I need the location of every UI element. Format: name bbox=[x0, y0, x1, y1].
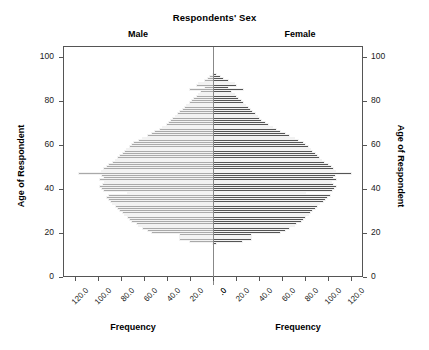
y-tick-mark-left-60 bbox=[59, 145, 63, 146]
y-tick-mark-left-0 bbox=[59, 277, 63, 278]
y-tick-mark-left-100 bbox=[59, 57, 63, 58]
y-tick-label-left-40: 40 bbox=[28, 183, 54, 193]
y-tick-label-left-80: 80 bbox=[28, 95, 54, 105]
x-tick-mark-right-.0 bbox=[213, 277, 214, 281]
y-tick-label-right-100: 100 bbox=[371, 51, 397, 61]
y-tick-mark-right-0 bbox=[363, 277, 367, 278]
x-axis-title-left: Frequency bbox=[73, 322, 193, 332]
y-tick-label-right-60: 60 bbox=[371, 139, 397, 149]
x-tick-label-right-20.0: 20.0 bbox=[224, 286, 252, 314]
x-tick-label-right-100.0: 100.0 bbox=[316, 286, 344, 314]
x-tick-label-left-120.0: 120.0 bbox=[62, 286, 90, 314]
y-tick-label-left-20: 20 bbox=[28, 227, 54, 237]
x-tick-label-left-60.0: 60.0 bbox=[132, 286, 160, 314]
y-tick-mark-right-40 bbox=[363, 189, 367, 190]
x-tick-label-left-80.0: 80.0 bbox=[108, 286, 136, 314]
y-axis-title-right: Age of Respondent bbox=[396, 106, 406, 226]
x-tick-mark-right-120.0 bbox=[351, 277, 352, 281]
y-tick-label-left-0: 0 bbox=[28, 271, 54, 281]
y-tick-mark-left-80 bbox=[59, 101, 63, 102]
y-tick-mark-right-80 bbox=[363, 101, 367, 102]
x-tick-mark-left-20.0 bbox=[190, 277, 191, 281]
x-tick-mark-right-100.0 bbox=[328, 277, 329, 281]
x-tick-mark-left-40.0 bbox=[167, 277, 168, 281]
x-axis-title-right: Frequency bbox=[238, 322, 358, 332]
x-tick-mark-left-100.0 bbox=[98, 277, 99, 281]
x-tick-mark-right-60.0 bbox=[282, 277, 283, 281]
y-tick-label-right-80: 80 bbox=[371, 95, 397, 105]
y-tick-mark-right-100 bbox=[363, 57, 367, 58]
y-tick-label-right-20: 20 bbox=[371, 227, 397, 237]
x-tick-label-left-20.0: 20.0 bbox=[178, 286, 206, 314]
x-tick-label-right-60.0: 60.0 bbox=[270, 286, 298, 314]
panel-title-female: Female bbox=[240, 29, 360, 39]
y-tick-mark-left-40 bbox=[59, 189, 63, 190]
y-tick-mark-left-20 bbox=[59, 233, 63, 234]
x-tick-mark-right-80.0 bbox=[305, 277, 306, 281]
chart-title: Respondents' Sex bbox=[0, 12, 429, 23]
y-tick-label-left-100: 100 bbox=[28, 51, 54, 61]
x-tick-mark-right-20.0 bbox=[236, 277, 237, 281]
population-pyramid-figure: Respondents' Sex Male Female 02040608010… bbox=[0, 0, 429, 350]
center-divider bbox=[213, 47, 214, 278]
panel-title-male: Male bbox=[78, 29, 198, 39]
y-tick-mark-right-60 bbox=[363, 145, 367, 146]
x-tick-mark-right-40.0 bbox=[259, 277, 260, 281]
y-tick-label-left-60: 60 bbox=[28, 139, 54, 149]
plot-area bbox=[63, 46, 363, 277]
y-tick-mark-right-20 bbox=[363, 233, 367, 234]
x-tick-label-right-.0: .0 bbox=[201, 286, 229, 314]
x-tick-mark-left-60.0 bbox=[144, 277, 145, 281]
x-tick-label-right-80.0: 80.0 bbox=[293, 286, 321, 314]
x-tick-label-left-40.0: 40.0 bbox=[155, 286, 183, 314]
bar-female-age-92 bbox=[214, 73, 217, 76]
x-tick-label-right-40.0: 40.0 bbox=[247, 286, 275, 314]
x-tick-label-left-100.0: 100.0 bbox=[85, 286, 113, 314]
y-tick-label-right-0: 0 bbox=[371, 271, 397, 281]
y-tick-label-right-40: 40 bbox=[371, 183, 397, 193]
x-tick-mark-left-120.0 bbox=[75, 277, 76, 281]
y-axis-title-left: Age of Respondent bbox=[16, 106, 26, 226]
x-tick-label-right-120.0: 120.0 bbox=[339, 286, 367, 314]
x-tick-mark-left-80.0 bbox=[121, 277, 122, 281]
